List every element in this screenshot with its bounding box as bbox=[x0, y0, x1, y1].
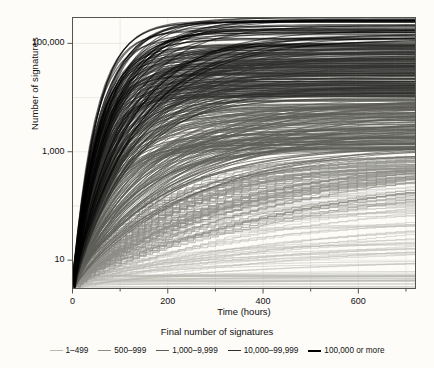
y-tick-label: 10 bbox=[0, 254, 65, 264]
y-tick-label: 1,000 bbox=[0, 146, 65, 156]
legend-swatch bbox=[50, 350, 63, 351]
legend-swatch bbox=[228, 350, 241, 351]
chart-legend: 1–499500–9991,000–9,99910,000–99,999100,… bbox=[0, 346, 434, 355]
legend-swatch bbox=[156, 350, 169, 351]
x-tick-label: 400 bbox=[243, 296, 283, 306]
legend-label: 100,000 or more bbox=[324, 346, 384, 355]
legend-item[interactable]: 1,000–9,999 bbox=[156, 346, 218, 355]
legend-label: 500–999 bbox=[114, 346, 146, 355]
legend-label: 10,000–99,999 bbox=[244, 346, 299, 355]
y-axis-label: Number of signatures bbox=[29, 4, 40, 164]
legend-title: Final number of signatures bbox=[0, 326, 434, 337]
x-axis-label: Time (hours) bbox=[72, 306, 416, 317]
legend-item[interactable]: 100,000 or more bbox=[308, 346, 384, 355]
legend-label: 1–499 bbox=[66, 346, 89, 355]
x-tick-label: 0 bbox=[53, 296, 93, 306]
legend-item[interactable]: 10,000–99,999 bbox=[228, 346, 299, 355]
x-tick-label: 200 bbox=[148, 296, 188, 306]
legend-label: 1,000–9,999 bbox=[172, 346, 218, 355]
legend-item[interactable]: 500–999 bbox=[98, 346, 146, 355]
legend-item[interactable]: 1–499 bbox=[50, 346, 89, 355]
y-tick-label: 100,000 bbox=[0, 37, 65, 47]
legend-swatch bbox=[98, 350, 111, 351]
x-tick-label: 600 bbox=[338, 296, 378, 306]
legend-swatch bbox=[308, 350, 321, 352]
